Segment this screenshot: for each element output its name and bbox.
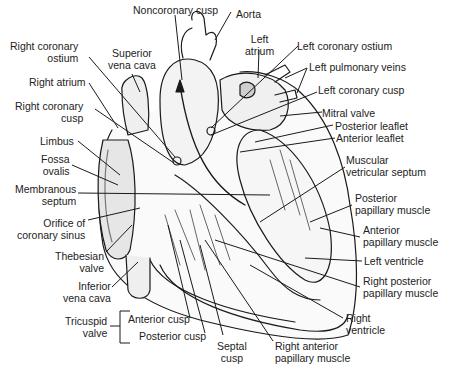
label-right-posterior-papillary-muscle: Right posterior papillary muscle (363, 275, 438, 299)
label-anterior-papillary-muscle: Anterior papillary muscle (363, 224, 438, 248)
label-anterior-leaflet: Anterior leaflet (336, 132, 404, 144)
label-inferior-vena-cava: Inferior vena cava (63, 280, 111, 304)
label-superior-vena-cava: Superior vena cava (108, 47, 156, 71)
label-posterior-cusp: Posterior cusp (139, 330, 206, 342)
label-posterior-leaflet: Posterior leaflet (335, 120, 408, 132)
label-membranous-septum: Membranous septum (15, 183, 76, 207)
label-aorta: Aorta (236, 8, 261, 20)
label-left-coronary-cusp: Left coronary cusp (318, 84, 404, 96)
heart-anatomy-diagram: Right coronary ostium Superior vena cava… (0, 0, 449, 369)
label-right-coronary-cusp: Right coronary cusp (15, 100, 83, 124)
label-anterior-cusp: Anterior cusp (128, 313, 190, 325)
label-right-anterior-papillary-muscle: Right anterior papillary muscle (275, 340, 350, 364)
label-orifice-coronary-sinus: Orifice of coronary sinus (17, 217, 85, 241)
label-limbus: Limbus (40, 135, 74, 147)
label-muscular-ventricular-septum: Muscular vetricular septum (346, 154, 426, 178)
label-right-coronary-ostium: Right coronary ostium (10, 40, 78, 64)
label-left-atrium: Left atrium (245, 33, 274, 57)
label-tricuspid-valve: Tricuspid valve (65, 315, 107, 339)
label-septal-cusp: Septal cusp (217, 340, 247, 364)
label-thebesian-valve: Thebesian valve (55, 250, 104, 274)
label-posterior-papillary-muscle: Posterior papillary muscle (355, 192, 430, 216)
label-left-pulmonary-veins: Left pulmonary veins (309, 61, 406, 73)
label-fossa-ovalis: Fossa ovalis (41, 153, 70, 177)
label-right-atrium: Right atrium (29, 76, 86, 88)
label-right-ventricle: Right ventricle (346, 312, 385, 336)
label-left-ventricle: Left ventricle (364, 255, 424, 267)
label-left-coronary-ostium: Left coronary ostium (297, 40, 392, 52)
label-noncoronary-cusp: Noncoronary cusp (133, 4, 218, 16)
label-mitral-valve: Mitral valve (322, 107, 375, 119)
